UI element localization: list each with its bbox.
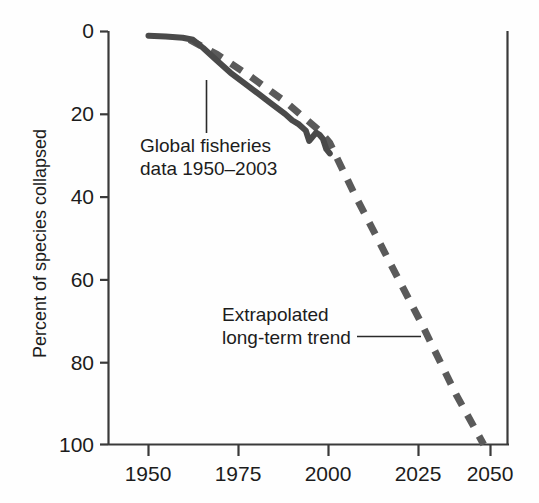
- y-tick-label-40: 40: [44, 185, 94, 209]
- x-tick-label-2050: 2050: [467, 462, 514, 486]
- y-tick-label-0: 0: [44, 19, 94, 43]
- annotation-extrapolated-trend: Extrapolated long-term trend: [222, 303, 351, 349]
- annotation-global-fisheries: Global fisheries data 1950–2003: [140, 134, 277, 180]
- y-tick-label-60: 60: [44, 268, 94, 292]
- x-tick-label-1950: 1950: [125, 462, 172, 486]
- y-axis-ticks: [100, 32, 108, 445]
- series-line-extrapolated-trend: [190, 40, 484, 445]
- x-tick-label-2025: 2025: [395, 462, 442, 486]
- y-tick-label-20: 20: [44, 102, 94, 126]
- annotation-extrapolated-trend-line1: Extrapolated: [222, 303, 351, 326]
- y-tick-label-100: 100: [44, 433, 94, 457]
- annotation-extrapolated-trend-line2: long-term trend: [222, 326, 351, 349]
- annotation-global-fisheries-line2: data 1950–2003: [140, 157, 277, 180]
- x-tick-label-1975: 1975: [215, 462, 262, 486]
- x-axis-ticks: [149, 445, 491, 456]
- chart-figure: 0 20 40 60 80 100 1950 1975 2000 2025 20…: [0, 0, 539, 503]
- y-axis-label: Percent of species collapsed: [30, 129, 51, 358]
- y-tick-label-80: 80: [44, 351, 94, 375]
- x-tick-label-2000: 2000: [305, 462, 352, 486]
- annotation-global-fisheries-line1: Global fisheries: [140, 134, 277, 157]
- chart-plot-area: [0, 0, 539, 503]
